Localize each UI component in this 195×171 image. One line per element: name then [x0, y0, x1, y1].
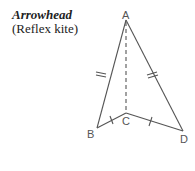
- label-c: C: [122, 115, 130, 127]
- tick-ad-1: [147, 72, 157, 75]
- edge-ab: [97, 20, 126, 128]
- edge-cd: [126, 113, 183, 131]
- label-d: D: [180, 133, 188, 145]
- tick-ad-2: [148, 75, 158, 78]
- label-a: A: [122, 9, 130, 21]
- tick-ab-1: [96, 72, 106, 74]
- label-b: B: [87, 128, 94, 140]
- arrowhead-diagram: A B C D: [0, 0, 195, 171]
- tick-ab-2: [96, 75, 106, 77]
